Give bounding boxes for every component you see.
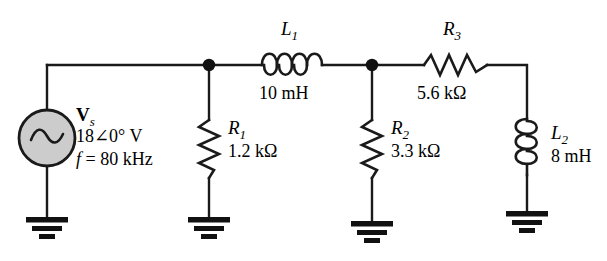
l2-symbol-label: L2 xyxy=(551,122,568,147)
r2-symbol-label: R2 xyxy=(391,117,409,142)
inductor-l1-coil-3 xyxy=(292,54,307,75)
l1-value-label: 10 mH xyxy=(259,83,309,103)
ground-r1 xyxy=(188,217,230,239)
ground-l2 xyxy=(506,211,548,233)
inductor-l2-coil-3 xyxy=(516,149,537,164)
ground-r2 xyxy=(351,221,393,243)
l1-symbol-label: L1 xyxy=(281,18,298,43)
junction-dot-right xyxy=(366,59,378,71)
r2-value-label: 3.3 kΩ xyxy=(391,141,440,161)
junction-dot-left xyxy=(203,59,215,71)
inductor-l1-coil-4 xyxy=(307,54,322,65)
resistor-r3-zigzag xyxy=(424,55,487,75)
inductor-l1-coil-1 xyxy=(262,54,277,75)
r1-value-label: 1.2 kΩ xyxy=(228,141,277,161)
r3-symbol-label: R3 xyxy=(443,18,461,43)
wire-r3-to-l2 xyxy=(487,65,527,119)
inductor-l2-coil-1 xyxy=(516,119,537,134)
inductor-l1-coil-2 xyxy=(277,54,292,75)
r1-symbol-label: R1 xyxy=(228,117,246,142)
source-value-label: 18∠0° V xyxy=(76,126,142,146)
resistor-r1-zigzag xyxy=(199,120,219,178)
r3-value-label: 5.6 kΩ xyxy=(417,83,466,103)
resistor-r2-zigzag xyxy=(362,120,382,178)
source-frequency-label: f = 80 kHz xyxy=(76,149,153,169)
inductor-l2-coil-2 xyxy=(516,134,537,149)
l2-value-label: 8 mH xyxy=(551,146,592,166)
ground-source xyxy=(26,217,68,239)
